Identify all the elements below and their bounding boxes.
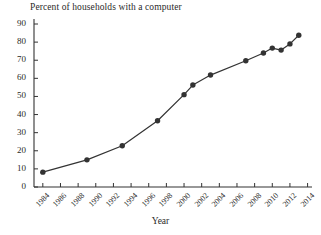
data-point-marker — [120, 143, 125, 148]
series-line — [43, 35, 299, 172]
y-tick-label: 80 — [4, 36, 26, 46]
data-point-marker — [40, 169, 45, 174]
y-tick-label: 30 — [4, 127, 26, 137]
axes-group — [34, 19, 312, 187]
y-tick-label: 20 — [4, 145, 26, 155]
data-series-line — [40, 33, 301, 175]
y-tick-label: 90 — [4, 18, 26, 28]
x-axis-title: Year — [0, 216, 321, 226]
y-tick-label: 60 — [4, 72, 26, 82]
data-point-marker — [261, 50, 266, 55]
data-point-marker — [155, 118, 160, 123]
data-point-marker — [243, 58, 248, 63]
y-tick-label: 40 — [4, 109, 26, 119]
data-point-marker — [278, 47, 283, 52]
data-point-marker — [181, 92, 186, 97]
data-point-marker — [270, 45, 275, 50]
y-tick-label: 50 — [4, 90, 26, 100]
y-tick-label: 10 — [4, 163, 26, 173]
data-point-marker — [84, 157, 89, 162]
data-point-marker — [208, 72, 213, 77]
chart-container: Percent of households with a computer 01… — [0, 0, 321, 235]
data-point-marker — [296, 33, 301, 38]
data-point-marker — [190, 82, 195, 87]
y-tick-label: 70 — [4, 54, 26, 64]
y-tick-label: 0 — [4, 181, 26, 191]
data-point-marker — [287, 41, 292, 46]
